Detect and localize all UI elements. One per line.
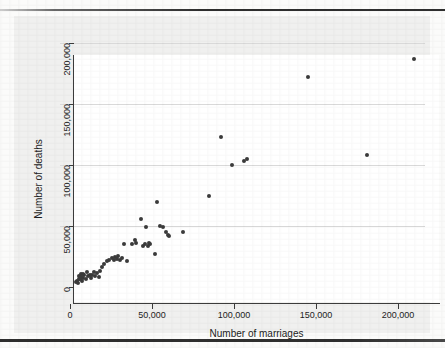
y-axis-tick-label: 200,000 xyxy=(62,43,72,76)
gridline-y xyxy=(60,226,425,227)
scatter-point xyxy=(153,252,157,256)
x-axis-title: Number of marriages xyxy=(74,328,439,339)
scatter-point xyxy=(245,157,249,161)
scatter-point xyxy=(130,242,134,246)
scatter-point xyxy=(144,225,148,229)
scatter-point xyxy=(365,153,369,157)
x-axis-tick xyxy=(398,304,399,309)
scatter-point xyxy=(122,242,126,246)
scatter-point xyxy=(167,234,171,238)
scatter-point xyxy=(97,275,101,279)
x-axis-tick-label: 0 xyxy=(67,310,72,320)
x-axis-tick xyxy=(70,304,71,309)
y-axis-line xyxy=(73,55,74,303)
y-axis-title: Number of deaths xyxy=(33,139,44,219)
scatter-point xyxy=(155,200,159,204)
scatter-point xyxy=(161,225,165,229)
page-top-rule xyxy=(0,9,445,11)
y-axis-tick-label: 150,000 xyxy=(62,104,72,137)
y-axis-tick-label: 50,000 xyxy=(62,226,72,254)
x-axis-tick xyxy=(234,304,235,309)
scatter-point xyxy=(219,135,223,139)
page-bottom-rule xyxy=(0,339,445,342)
graph-region: 050,000100,000150,000200,000 050,000100,… xyxy=(14,16,430,333)
x-axis-tick xyxy=(152,304,153,309)
x-axis-tick-label: 150,000 xyxy=(300,310,333,320)
y-axis-tick-label: 100,000 xyxy=(62,165,72,198)
y-axis-title-wrap: Number of deaths xyxy=(32,55,44,302)
scanned-page-background: 050,000100,000150,000200,000 050,000100,… xyxy=(0,0,445,348)
x-axis-tick-label: 200,000 xyxy=(382,310,415,320)
gridline-y xyxy=(60,104,425,105)
x-axis-line xyxy=(73,303,440,304)
x-axis-tick-label: 50,000 xyxy=(138,310,166,320)
gridline-y xyxy=(60,43,425,44)
y-axis-tick-label: 0 xyxy=(62,287,72,292)
x-axis-tick xyxy=(316,304,317,309)
scatter-point xyxy=(306,75,310,79)
scatter-point xyxy=(120,256,124,260)
gridline-y xyxy=(60,165,425,166)
plot-panel xyxy=(74,55,439,302)
scatter-point xyxy=(98,269,102,273)
scatter-point xyxy=(207,194,211,198)
x-axis-tick-label: 100,000 xyxy=(218,310,251,320)
